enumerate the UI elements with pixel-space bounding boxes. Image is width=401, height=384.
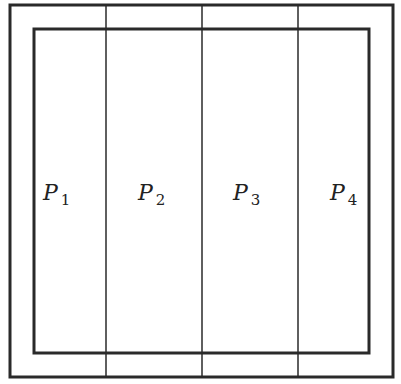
partition-label-name: P xyxy=(42,180,59,205)
partition-diagram: P1 P2 P3 P4 xyxy=(0,0,401,384)
diagram-svg: P1 P2 P3 P4 xyxy=(0,0,401,384)
partition-label-subscript: 2 xyxy=(156,191,166,209)
partition-label-name: P xyxy=(232,180,249,205)
partition-labels: P1 P2 P3 P4 xyxy=(42,180,357,209)
partition-label-subscript: 4 xyxy=(348,191,358,209)
partition-label-name: P xyxy=(329,180,346,205)
partition-label-subscript: 3 xyxy=(251,191,261,209)
partition-label-p2: P2 xyxy=(137,180,165,209)
partition-label-subscript: 1 xyxy=(61,191,71,209)
partition-label-p3: P3 xyxy=(232,180,260,209)
partition-dividers xyxy=(106,5,298,377)
partition-label-name: P xyxy=(137,180,154,205)
partition-label-p1: P1 xyxy=(42,180,70,209)
partition-label-p4: P4 xyxy=(329,180,357,209)
